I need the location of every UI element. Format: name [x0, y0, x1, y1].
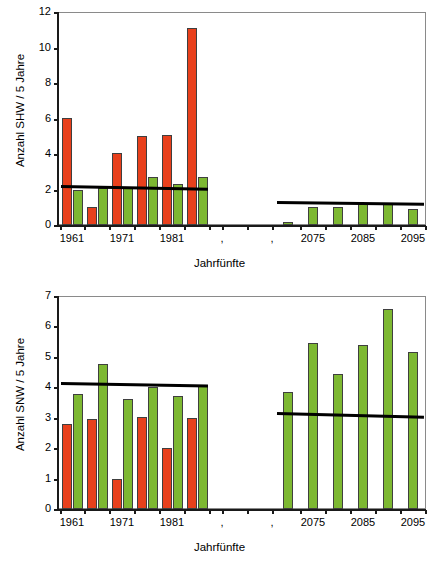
x-tick: [222, 226, 224, 230]
figure-two-bar-charts: 024681012196119711981,,207520852095Anzah…: [0, 0, 439, 568]
x-tick: [350, 510, 352, 514]
bar-modelled: [283, 392, 293, 509]
x-tick-label: 2075: [291, 517, 335, 528]
x-tick: [134, 510, 136, 514]
bar-modelled: [148, 387, 158, 509]
x-tick: [159, 226, 161, 230]
bar-observed: [162, 448, 172, 509]
bar-modelled: [408, 352, 418, 509]
x-tick-label: ,: [250, 517, 294, 528]
y-tick: [54, 190, 57, 192]
x-axis: [57, 509, 426, 511]
x-tick: [209, 226, 211, 230]
bar-observed: [187, 28, 197, 225]
x-tick: [400, 226, 402, 230]
y-tick: [54, 357, 57, 359]
x-tick: [134, 226, 136, 230]
x-tick: [84, 510, 86, 514]
bar-modelled: [198, 385, 208, 509]
y-tick: [54, 225, 57, 227]
x-tick: [184, 510, 186, 514]
y-axis-label: Anzahl SHW / 5 Jahre: [14, 4, 26, 217]
bar-modelled: [383, 203, 393, 225]
bar-modelled: [383, 309, 393, 509]
bar-modelled: [333, 207, 343, 225]
y-tick: [54, 119, 57, 121]
y-axis: [57, 296, 59, 510]
x-tick-label: 1981: [150, 517, 194, 528]
x-tick: [222, 510, 224, 514]
x-tick-label: 2075: [291, 233, 335, 244]
x-tick: [109, 510, 111, 514]
x-tick: [272, 510, 274, 514]
x-tick: [375, 226, 377, 230]
bar-observed: [62, 118, 72, 225]
bar-modelled: [98, 188, 108, 225]
y-tick-label: 0: [17, 503, 51, 514]
x-tick-label: 1981: [150, 233, 194, 244]
x-tick-label: 2095: [391, 517, 435, 528]
y-axis-label: Anzahl SNW / 5 Jahre: [14, 288, 26, 501]
x-tick: [84, 226, 86, 230]
x-tick: [60, 510, 62, 514]
x-tick: [425, 226, 427, 230]
bar-observed: [62, 424, 72, 509]
x-tick: [350, 226, 352, 230]
x-tick: [109, 226, 111, 230]
x-axis-label: Jahrfünfte: [0, 541, 439, 553]
x-tick-label: 1961: [50, 517, 94, 528]
bar-modelled: [73, 394, 83, 509]
bar-observed: [87, 419, 97, 509]
bar-modelled: [308, 207, 318, 225]
y-tick: [54, 509, 57, 511]
bar-modelled: [73, 190, 83, 226]
plot-area: [57, 296, 426, 509]
x-tick-label: 2095: [391, 233, 435, 244]
bar-modelled: [308, 343, 318, 509]
bar-modelled: [333, 374, 343, 509]
chart-shw: 024681012196119711981,,207520852095Anzah…: [0, 0, 439, 284]
bar-observed: [187, 418, 197, 509]
y-tick: [54, 12, 57, 14]
bar-observed: [112, 479, 122, 509]
x-tick-label: 1961: [50, 233, 94, 244]
bar-observed: [87, 207, 97, 225]
bar-modelled: [123, 187, 133, 225]
y-tick-label: 0: [17, 219, 51, 230]
y-tick: [54, 296, 57, 298]
y-tick: [54, 326, 57, 328]
x-tick: [425, 510, 427, 514]
chart-snw: 01234567196119711981,,207520852095Anzahl…: [0, 284, 439, 568]
x-tick: [375, 510, 377, 514]
x-tick-label: 2085: [341, 233, 385, 244]
bar-observed: [137, 417, 147, 509]
x-tick-label: ,: [200, 233, 244, 244]
x-tick-label: 1971: [100, 233, 144, 244]
bar-modelled: [408, 209, 418, 225]
bar-observed: [137, 136, 147, 225]
x-tick-label: ,: [200, 517, 244, 528]
bar-modelled: [123, 399, 133, 509]
bar-modelled: [173, 184, 183, 225]
x-tick: [272, 226, 274, 230]
x-axis: [57, 225, 426, 227]
x-tick: [300, 510, 302, 514]
x-tick-label: 2085: [341, 517, 385, 528]
bar-modelled: [198, 177, 208, 225]
y-tick: [54, 83, 57, 85]
bar-observed: [162, 135, 172, 225]
x-axis-label: Jahrfünfte: [0, 257, 439, 269]
x-tick: [300, 226, 302, 230]
y-tick: [54, 154, 57, 156]
y-tick: [54, 387, 57, 389]
bar-modelled: [283, 222, 293, 225]
bar-modelled: [173, 396, 183, 509]
y-tick: [54, 48, 57, 50]
x-tick: [209, 510, 211, 514]
y-tick: [54, 448, 57, 450]
x-tick: [159, 510, 161, 514]
x-tick: [400, 510, 402, 514]
y-tick: [54, 479, 57, 481]
y-axis: [57, 12, 59, 226]
x-tick-label: ,: [250, 233, 294, 244]
